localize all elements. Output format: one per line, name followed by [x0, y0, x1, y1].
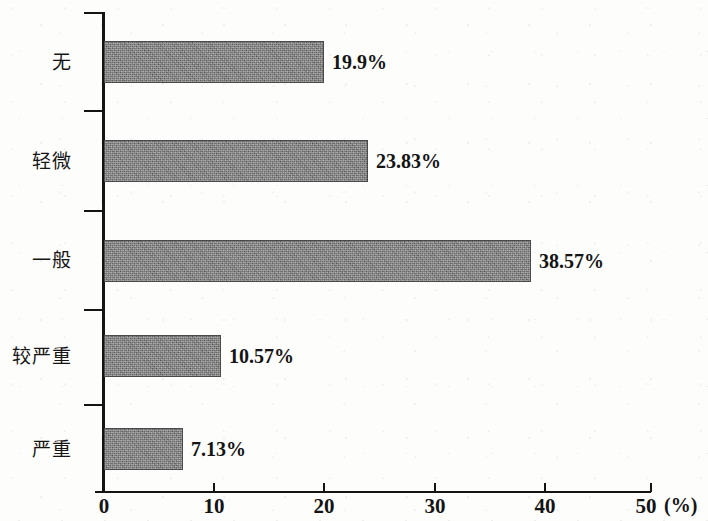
- y-axis-tick: [84, 12, 103, 14]
- x-tick-label-0: 0: [74, 494, 134, 519]
- x-axis-tick: [103, 483, 105, 492]
- bar-chart: 无 轻微 一般 较严重 严重 19.9% 23.83% 38.57% 10.57…: [0, 0, 708, 521]
- x-axis-tick: [650, 483, 652, 492]
- x-tick-label-30: 30: [405, 494, 465, 519]
- x-axis-tick: [323, 483, 325, 492]
- x-axis-tick: [213, 483, 215, 492]
- value-label-qingwei: 23.83%: [376, 140, 441, 182]
- bar-qingwei: [104, 140, 368, 182]
- value-label-wu: 19.9%: [332, 41, 387, 83]
- category-label-wu: 无: [52, 51, 72, 73]
- x-tick-label-20: 20: [294, 494, 354, 519]
- category-label-yiban: 一般: [32, 249, 72, 271]
- category-label-qingwei: 轻微: [32, 150, 72, 172]
- y-axis-tick: [84, 404, 103, 406]
- x-axis-tick: [434, 483, 436, 492]
- y-axis-tick: [84, 210, 103, 212]
- bar-yiban: [104, 240, 531, 282]
- category-label-jiaoyanzhong: 较严重: [12, 345, 72, 367]
- value-label-yanzhong: 7.13%: [191, 428, 246, 470]
- value-label-yiban: 38.57%: [539, 240, 604, 282]
- value-label-jiaoyanzhong: 10.57%: [229, 335, 294, 377]
- category-label-yanzhong: 严重: [32, 438, 72, 460]
- y-axis-tick: [84, 309, 103, 311]
- bar-yanzhong: [104, 428, 183, 470]
- x-tick-label-40: 40: [515, 494, 575, 519]
- x-axis-line: [95, 491, 651, 493]
- bar-jiaoyanzhong: [104, 335, 221, 377]
- y-axis-tick: [84, 110, 103, 112]
- x-tick-label-10: 10: [184, 494, 244, 519]
- x-axis-unit-label: (%): [664, 494, 697, 517]
- bar-wu: [104, 41, 324, 83]
- x-axis-tick: [544, 483, 546, 492]
